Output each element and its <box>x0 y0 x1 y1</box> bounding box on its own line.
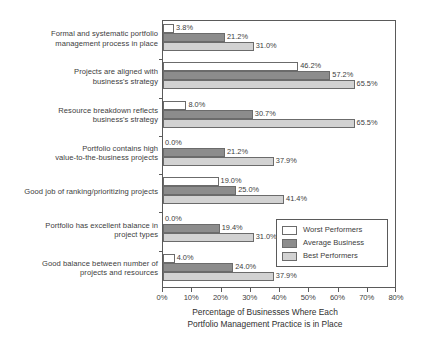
bar <box>163 148 225 157</box>
bar-value-label: 31.0% <box>256 41 277 51</box>
x-axis-title: Percentage of Businesses Where EachPortf… <box>120 307 410 330</box>
category-label-line: project types <box>0 230 158 239</box>
legend-label: Worst Performers <box>303 225 362 235</box>
bar-row: 65.5% <box>163 119 395 128</box>
legend-swatch <box>282 252 297 261</box>
category-tick <box>159 251 163 252</box>
legend-item: Best Performers <box>282 250 382 262</box>
bar-value-label: 3.8% <box>176 23 193 33</box>
bar-row: 31.0% <box>163 42 395 51</box>
category-label-line: Projects are aligned with <box>0 67 158 76</box>
category-label: Portfolio has excellent balance inprojec… <box>0 221 158 240</box>
bar-row: 37.9% <box>163 157 395 166</box>
x-tick-label: 60% <box>330 293 345 303</box>
bar-value-label: 0.0% <box>165 138 182 148</box>
bar <box>163 272 274 281</box>
category-label-line: Resource breakdown reflects <box>0 106 158 115</box>
category-label: Good balance between number ofprojects a… <box>0 259 158 278</box>
category-label-line: management process in place <box>0 39 158 48</box>
bar-group: 8.0%30.7%65.5% <box>163 101 395 128</box>
x-tick-label: 80% <box>388 293 403 303</box>
category-label: Portfolio contains highvalue-to-the-busi… <box>0 144 158 163</box>
bar-value-label: 31.0% <box>256 232 277 242</box>
x-tick <box>338 288 339 292</box>
x-tick <box>162 288 163 292</box>
category-label-line: Formal and systematic portfolio <box>0 29 158 38</box>
x-tick-label: 50% <box>301 293 316 303</box>
bar <box>163 71 330 80</box>
x-tick <box>308 288 309 292</box>
bar-value-label: 25.0% <box>238 185 259 195</box>
legend-swatch <box>282 239 297 248</box>
category-tick <box>159 212 163 213</box>
category-tick <box>159 174 163 175</box>
category-tick <box>159 136 163 137</box>
category-tick <box>159 59 163 60</box>
bar-value-label: 46.2% <box>300 61 321 71</box>
x-axis-title-line: Portfolio Management Practice is in Plac… <box>120 319 410 331</box>
bar <box>163 119 355 128</box>
legend-item: Average Business <box>282 237 382 249</box>
bar-row: 25.0% <box>163 186 395 195</box>
x-tick-label: 40% <box>271 293 286 303</box>
category-label-line: business's strategy <box>0 77 158 86</box>
bar-row: 19.0% <box>163 177 395 186</box>
x-tick <box>395 288 396 292</box>
legend-item: Worst Performers <box>282 224 382 236</box>
x-tick-label: 30% <box>242 293 257 303</box>
bar <box>163 186 236 195</box>
bar-value-label: 37.9% <box>276 156 297 166</box>
bar <box>163 110 253 119</box>
bar <box>163 233 254 242</box>
category-axis: Formal and systematic portfoliomanagemen… <box>0 20 158 288</box>
category-label-line: value-to-the-business projects <box>0 153 158 162</box>
bar-row: 21.2% <box>163 33 395 42</box>
category-label-line: Portfolio has excellent balance in <box>0 221 158 230</box>
bar-value-label: 21.2% <box>227 147 248 157</box>
bar-group: 3.8%21.2%31.0% <box>163 24 395 51</box>
legend-swatch <box>282 226 297 235</box>
bar-group: 19.0%25.0%41.4% <box>163 177 395 204</box>
x-tick <box>367 288 368 292</box>
category-label-line: Portfolio contains high <box>0 144 158 153</box>
bar-row: 37.9% <box>163 272 395 281</box>
category-label-line: projects and resources <box>0 268 158 277</box>
category-label-line: business's strategy <box>0 115 158 124</box>
bar-value-label: 57.2% <box>332 70 353 80</box>
bar-value-label: 4.0% <box>177 253 194 263</box>
category-label: Projects are aligned withbusiness's stra… <box>0 67 158 86</box>
bar <box>163 33 225 42</box>
x-tick-label: 20% <box>213 293 228 303</box>
bar <box>163 224 220 233</box>
bar-value-label: 24.0% <box>235 262 256 272</box>
bar-group: 46.2%57.2%65.5% <box>163 62 395 89</box>
x-tick <box>221 288 222 292</box>
bar <box>163 42 254 51</box>
bar <box>163 157 274 166</box>
bar-row: 3.8% <box>163 24 395 33</box>
bar-value-label: 19.4% <box>222 223 243 233</box>
bar <box>163 24 174 33</box>
bar <box>163 80 355 89</box>
chart-legend: Worst PerformersAverage BusinessBest Per… <box>276 219 388 267</box>
bar-group: 0.0%21.2%37.9% <box>163 139 395 166</box>
bar-value-label: 0.0% <box>165 214 182 224</box>
category-label: Resource breakdown reflectsbusiness's st… <box>0 106 158 125</box>
bar-value-label: 21.2% <box>227 32 248 42</box>
bar-chart: Formal and systematic portfoliomanagemen… <box>0 0 422 346</box>
bar <box>163 263 233 272</box>
bar-value-label: 65.5% <box>357 79 378 89</box>
category-label: Good job of ranking/prioritizing project… <box>0 187 158 196</box>
x-tick <box>279 288 280 292</box>
bar-row: 65.5% <box>163 80 395 89</box>
category-label: Formal and systematic portfoliomanagemen… <box>0 29 158 48</box>
bar-row: 8.0% <box>163 101 395 110</box>
bar-row: 46.2% <box>163 62 395 71</box>
x-tick-label: 70% <box>359 293 374 303</box>
x-tick <box>191 288 192 292</box>
bar <box>163 254 175 263</box>
legend-label: Best Performers <box>303 251 358 261</box>
bar-value-label: 65.5% <box>357 118 378 128</box>
bar-value-label: 41.4% <box>286 194 307 204</box>
x-axis-title-line: Percentage of Businesses Where Each <box>120 307 410 319</box>
